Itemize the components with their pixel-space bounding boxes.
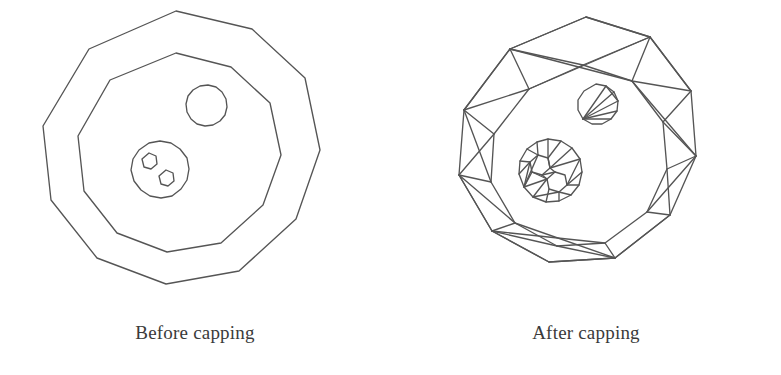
- inner-boundary-polygon: [78, 53, 281, 252]
- figure-page: Before capping: [0, 0, 781, 375]
- upper-hole-capped: [578, 84, 618, 124]
- after-capping-svg: [391, 0, 781, 318]
- panel-after-capping: After capping: [391, 0, 781, 375]
- caption-after-capping: After capping: [391, 322, 781, 344]
- outer-boundary-polygon: [459, 17, 696, 262]
- hexagon-hole-upper: [142, 153, 157, 169]
- upper-hole-circle: [186, 85, 227, 126]
- annulus-capping-triangles: [459, 17, 696, 262]
- outer-boundary-polygon: [43, 11, 320, 284]
- lower-hole-capped: [519, 139, 582, 202]
- lower-hole-circle: [131, 141, 189, 198]
- hexagon-hole-lower: [159, 170, 174, 186]
- panel-before-capping: Before capping: [0, 0, 390, 375]
- caption-before-capping: Before capping: [0, 322, 390, 344]
- inner-hexagon-lower-capped: [547, 172, 567, 192]
- before-capping-drawing: [0, 0, 390, 318]
- after-capping-drawing: [391, 0, 781, 318]
- before-capping-svg: [0, 0, 390, 318]
